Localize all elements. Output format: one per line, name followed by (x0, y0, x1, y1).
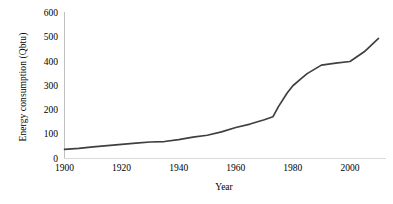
energy-consumption-line-chart: Energy consumption (Qbtu) 01002003004005… (0, 0, 393, 204)
data-series-line (65, 38, 379, 149)
plot-area (0, 0, 393, 204)
x-axis-title: Year (64, 182, 384, 192)
